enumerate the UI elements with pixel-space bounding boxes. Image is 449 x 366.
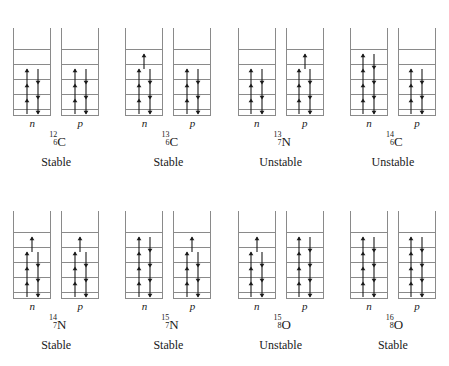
energy-level [398, 95, 436, 110]
proton-energy-levels [286, 35, 324, 110]
energy-level [286, 278, 324, 293]
energy-level [350, 50, 388, 65]
energy-level [125, 218, 163, 233]
energy-level [286, 95, 324, 110]
energy-level [125, 233, 163, 248]
energy-level [61, 50, 99, 65]
energy-level [13, 263, 51, 278]
element-symbol: N [281, 134, 290, 149]
nuclide-numbers: 168 [383, 313, 394, 329]
stability-label: Unstable [337, 155, 449, 170]
energy-level [125, 263, 163, 278]
diagram-row-top: np126CStablenp136CStablenp137NUnstablenp… [0, 0, 449, 183]
nuclide-diagram: np126CStable [0, 0, 112, 183]
proton-well-group [398, 28, 436, 116]
stability-label: Stable [112, 155, 224, 170]
energy-level [286, 263, 324, 278]
energy-level [286, 50, 324, 65]
proton-energy-levels [61, 35, 99, 110]
energy-level [173, 233, 211, 248]
nuclide-numbers: 147 [46, 313, 57, 329]
neutron-energy-levels [13, 35, 51, 110]
energy-level [286, 35, 324, 50]
diagram-row-bottom: np147NStablenp157NStablenp158OUnstablenp… [0, 183, 449, 366]
energy-level [173, 263, 211, 278]
nuclide-notation: 137N [225, 130, 337, 150]
energy-level [61, 65, 99, 80]
nuclide-numbers: 136 [159, 130, 170, 146]
energy-level [238, 278, 276, 293]
energy-level [398, 80, 436, 95]
energy-level [125, 35, 163, 50]
energy-level [173, 35, 211, 50]
proton-energy-levels [173, 35, 211, 110]
energy-level [13, 233, 51, 248]
neutron-energy-levels [238, 218, 276, 293]
well-pair [337, 28, 449, 116]
well-pair [112, 28, 224, 116]
element-symbol: C [394, 134, 403, 149]
energy-level [350, 278, 388, 293]
energy-level [125, 65, 163, 80]
neutron-well-group [350, 211, 388, 299]
element-symbol: C [170, 134, 179, 149]
energy-level [13, 248, 51, 263]
energy-level [238, 248, 276, 263]
energy-level [125, 50, 163, 65]
stability-label: Unstable [225, 338, 337, 353]
nuclide-diagram: np168OStable [337, 183, 449, 366]
proton-well-group [173, 211, 211, 299]
well-pair [0, 28, 112, 116]
nuclide-notation: 126C [0, 130, 112, 150]
well-pair [112, 211, 224, 299]
energy-level [238, 80, 276, 95]
energy-level [350, 218, 388, 233]
stability-label: Stable [337, 338, 449, 353]
stability-label: Stable [112, 338, 224, 353]
nuclide-notation: 146C [337, 130, 449, 150]
atomic-number: 6 [159, 139, 170, 147]
nuclide-notation: 168O [337, 313, 449, 333]
nuclide-diagram: np136CStable [112, 0, 224, 183]
element-symbol: O [394, 317, 403, 332]
energy-level [350, 263, 388, 278]
energy-level [398, 233, 436, 248]
energy-level [173, 65, 211, 80]
shell-model-figure: np126CStablenp136CStablenp137NUnstablenp… [0, 0, 449, 366]
proton-well-group [61, 211, 99, 299]
well-pair [225, 28, 337, 116]
energy-level [13, 80, 51, 95]
nuclide-numbers: 126 [46, 130, 57, 146]
neutron-well-group [13, 28, 51, 116]
energy-level [238, 233, 276, 248]
well-pair [225, 211, 337, 299]
energy-level [238, 95, 276, 110]
energy-level [238, 65, 276, 80]
energy-level [350, 248, 388, 263]
stability-label: Stable [0, 338, 112, 353]
proton-well-group [286, 211, 324, 299]
well-pair [0, 211, 112, 299]
energy-level [125, 95, 163, 110]
energy-level [173, 248, 211, 263]
energy-level [286, 233, 324, 248]
energy-level [61, 95, 99, 110]
neutron-energy-levels [125, 35, 163, 110]
proton-well-group [398, 211, 436, 299]
energy-level [286, 80, 324, 95]
nuclide-numbers: 137 [270, 130, 281, 146]
energy-level [350, 95, 388, 110]
nuclide-notation: 157N [112, 313, 224, 333]
energy-level [173, 95, 211, 110]
energy-level [13, 35, 51, 50]
energy-level [125, 80, 163, 95]
energy-level [286, 65, 324, 80]
nuclide-notation: 147N [0, 313, 112, 333]
energy-level [173, 80, 211, 95]
energy-level [13, 95, 51, 110]
energy-level [398, 50, 436, 65]
stability-label: Unstable [225, 155, 337, 170]
neutron-well-group [238, 211, 276, 299]
energy-level [61, 278, 99, 293]
energy-level [398, 248, 436, 263]
